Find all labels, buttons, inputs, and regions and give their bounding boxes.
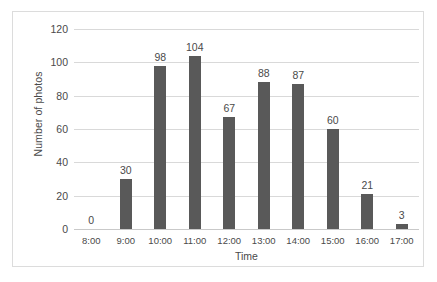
bar-value-label: 3	[385, 209, 420, 221]
y-axis-tick-label: 0	[62, 223, 68, 235]
bar-group[interactable]: 8714:00	[281, 29, 316, 229]
x-axis-tick-label: 8:00	[74, 235, 109, 246]
bar-value-label: 67	[212, 102, 247, 114]
x-axis-tick-label: 11:00	[178, 235, 213, 246]
y-axis-title: Number of photos	[32, 49, 44, 179]
bar-value-label: 0	[74, 214, 109, 226]
bar-value-label: 88	[247, 67, 282, 79]
plot-area: 02040608010012008:00309:009810:0010411:0…	[74, 29, 419, 229]
bar[interactable]	[361, 194, 373, 229]
x-axis-tick-label: 12:00	[212, 235, 247, 246]
y-axis-tick-label: 100	[50, 56, 68, 68]
x-axis-tick-label: 16:00	[350, 235, 385, 246]
bar-value-label: 98	[143, 51, 178, 63]
bar[interactable]	[120, 179, 132, 229]
bar[interactable]	[396, 224, 408, 229]
bar-value-label: 30	[109, 164, 144, 176]
bar-value-label: 21	[350, 179, 385, 191]
gridline	[74, 229, 419, 230]
chart-figure: Number of photos 02040608010012008:00309…	[12, 11, 424, 267]
bar-group[interactable]: 2116:00	[350, 29, 385, 229]
bar-group[interactable]: 9810:00	[143, 29, 178, 229]
bar-value-label: 60	[316, 114, 351, 126]
bar-group[interactable]: 8813:00	[247, 29, 282, 229]
bar-group[interactable]: 10411:00	[178, 29, 213, 229]
bar-group[interactable]: 08:00	[74, 29, 109, 229]
x-axis-tick-label: 15:00	[316, 235, 351, 246]
y-axis-tick-label: 120	[50, 23, 68, 35]
x-axis-tick-label: 9:00	[109, 235, 144, 246]
bar-group[interactable]: 6015:00	[316, 29, 351, 229]
y-axis-tick-label: 20	[56, 190, 68, 202]
y-axis-tick-label: 40	[56, 156, 68, 168]
bar-group[interactable]: 6712:00	[212, 29, 247, 229]
x-axis-tick-label: 10:00	[143, 235, 178, 246]
x-axis-tick-label: 13:00	[247, 235, 282, 246]
bar-group[interactable]: 309:00	[109, 29, 144, 229]
bar[interactable]	[154, 66, 166, 229]
y-axis-tick-label: 60	[56, 123, 68, 135]
bar[interactable]	[258, 82, 270, 229]
x-axis-tick-label: 14:00	[281, 235, 316, 246]
bar-value-label: 104	[178, 41, 213, 53]
bar[interactable]	[189, 56, 201, 229]
bar[interactable]	[223, 117, 235, 229]
x-axis-tick-label: 17:00	[385, 235, 420, 246]
y-axis-tick-label: 80	[56, 90, 68, 102]
bar-value-label: 87	[281, 69, 316, 81]
x-axis-title: Time	[74, 250, 419, 262]
bar[interactable]	[327, 129, 339, 229]
bar[interactable]	[292, 84, 304, 229]
bar-group[interactable]: 317:00	[385, 29, 420, 229]
